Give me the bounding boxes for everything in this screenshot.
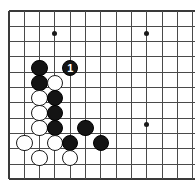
grid-line-vertical-11 (177, 11, 178, 179)
stone-white[interactable] (31, 105, 48, 122)
grid-line-vertical-7 (116, 11, 117, 179)
stone-black[interactable] (77, 120, 94, 137)
go-board-diagram: 1 (0, 0, 195, 188)
stone-white[interactable] (16, 135, 33, 152)
stone-white[interactable] (47, 75, 64, 92)
grid-line-vertical-5 (85, 11, 86, 179)
grid-line-vertical-12 (192, 11, 193, 179)
stone-black[interactable] (31, 75, 48, 92)
hoshi-top-right-icon (144, 31, 149, 36)
grid-line-vertical-1 (24, 11, 25, 179)
grid-line-horizontal-11 (9, 178, 195, 180)
stone-black[interactable] (47, 105, 64, 122)
grid-line-horizontal-2 (9, 41, 195, 42)
grid-line-vertical-6 (100, 11, 101, 179)
hoshi-center-right-icon (144, 122, 149, 127)
grid-line-vertical-10 (162, 11, 163, 179)
grid-line-vertical-8 (131, 11, 132, 179)
stone-black-move-1[interactable]: 1 (62, 60, 79, 77)
grid-line-horizontal-0 (9, 10, 195, 12)
stone-black[interactable] (31, 60, 48, 77)
grid-line-horizontal-3 (9, 56, 195, 57)
stone-black[interactable] (47, 90, 64, 107)
stone-white[interactable] (31, 150, 48, 167)
stone-white[interactable] (31, 120, 48, 137)
grid-line-vertical-9 (146, 11, 147, 179)
hoshi-top-left-icon (52, 31, 57, 36)
stone-move-number: 1 (63, 61, 78, 76)
stone-white[interactable] (31, 90, 48, 107)
goban-grid: 1 (0, 0, 195, 188)
grid-line-horizontal-1 (9, 26, 195, 27)
grid-line-vertical-0 (8, 11, 10, 179)
